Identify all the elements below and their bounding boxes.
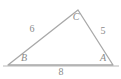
side-label-bc: 6 (30, 24, 35, 34)
vertex-label-a: A (100, 53, 106, 63)
vertex-label-c: C (73, 12, 80, 22)
geometry-diagram: 6 5 8 B A C (0, 0, 121, 79)
vertex-label-b: B (21, 53, 27, 63)
side-label-ba: 8 (59, 67, 64, 77)
side-label-ca: 5 (101, 26, 106, 36)
